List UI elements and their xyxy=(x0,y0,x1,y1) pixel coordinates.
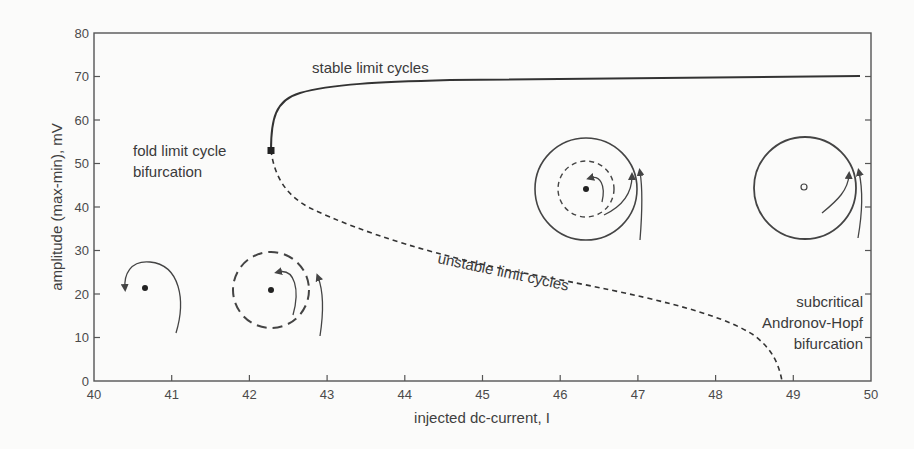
y-tick: 10 xyxy=(75,330,89,345)
hopf-label-line2: Andronov-Hopf xyxy=(762,314,864,331)
y-axis-label: amplitude (max-min), mV xyxy=(48,123,65,291)
fold-label-line2: bifurcation xyxy=(133,163,202,180)
x-tick: 49 xyxy=(786,387,800,402)
fold-label-line1: fold limit cycle xyxy=(133,142,226,159)
phase-portrait-bistable xyxy=(535,138,642,240)
fold-point-marker xyxy=(268,147,275,154)
bifurcation-chart: 0 10 20 30 40 50 60 70 80 40 41 42 43 44… xyxy=(0,0,914,449)
y-tick: 30 xyxy=(75,243,89,258)
unstable-label: unstable limit cycles xyxy=(436,249,570,293)
x-tick: 44 xyxy=(398,387,412,402)
y-tick: 80 xyxy=(75,26,89,41)
y-axis xyxy=(94,77,871,338)
x-tick: 43 xyxy=(320,387,334,402)
x-tick: 47 xyxy=(631,387,645,402)
stable-limit-cycle-branch xyxy=(271,76,860,150)
x-axis-label: injected dc-current, I xyxy=(414,409,550,426)
y-tick: 50 xyxy=(75,156,89,171)
x-axis xyxy=(172,375,794,381)
y-tick: 20 xyxy=(75,287,89,302)
x-tick: 48 xyxy=(708,387,722,402)
x-tick: 50 xyxy=(864,387,878,402)
unstable-limit-cycle-branch xyxy=(271,150,782,381)
stable-label: stable limit cycles xyxy=(312,59,429,76)
hopf-label-line3: bifurcation xyxy=(794,335,863,352)
x-tick: 45 xyxy=(475,387,489,402)
y-tick: 60 xyxy=(75,113,89,128)
phase-portrait-stable-cycle xyxy=(754,137,862,239)
hopf-label-line1: subcritical xyxy=(796,293,863,310)
phase-portrait-unstable-cycle xyxy=(233,252,322,336)
y-tick: 40 xyxy=(75,200,89,215)
x-tick: 42 xyxy=(242,387,256,402)
plot-frame xyxy=(94,33,871,381)
x-tick: 41 xyxy=(164,387,178,402)
x-tick: 40 xyxy=(87,387,101,402)
phase-portrait-stable-focus xyxy=(125,262,181,333)
y-tick: 70 xyxy=(75,69,89,84)
x-tick: 46 xyxy=(553,387,567,402)
x-tick-labels: 40 41 42 43 44 45 46 47 48 49 50 xyxy=(87,387,878,402)
y-tick-labels: 0 10 20 30 40 50 60 70 80 xyxy=(75,26,89,389)
